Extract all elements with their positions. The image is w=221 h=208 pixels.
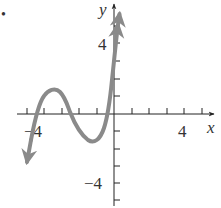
- cubic-function-graph: • y x −4 4 4 −4: [0, 0, 221, 208]
- y-tick-label-4: 4: [98, 35, 107, 54]
- y-tick-label-neg4: −4: [84, 174, 103, 193]
- x-tick-label-4: 4: [178, 122, 187, 141]
- y-axis-label: y: [97, 0, 107, 19]
- x-axis-label: x: [206, 118, 215, 137]
- curve-upper-arrow: [118, 14, 120, 25]
- bullet-marker: •: [1, 7, 6, 22]
- curve-lower-arrow: [27, 140, 31, 162]
